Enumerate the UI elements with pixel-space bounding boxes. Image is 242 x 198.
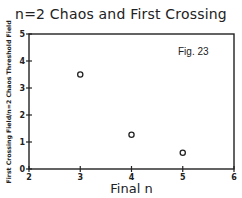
- plot-frame: [29, 34, 234, 169]
- x-tick-label: 5: [180, 173, 186, 182]
- x-tick-label: 2: [26, 173, 32, 182]
- y-tick-label: 4: [19, 57, 25, 66]
- y-tick-label: 5: [19, 30, 25, 39]
- y-axis-ticks: 012345: [19, 30, 32, 174]
- x-tick-label: 4: [129, 173, 135, 182]
- y-tick-label: 3: [19, 84, 25, 93]
- data-point: [129, 132, 134, 137]
- plot-area: 23456 012345: [0, 0, 242, 198]
- x-tick-label: 3: [77, 173, 83, 182]
- y-tick-label: 1: [19, 138, 25, 147]
- y-tick-label: 2: [19, 111, 25, 120]
- y-tick-label: 0: [19, 165, 25, 174]
- data-points: [78, 72, 186, 155]
- data-point: [180, 150, 185, 155]
- data-point: [78, 72, 83, 77]
- x-tick-label: 6: [231, 173, 237, 182]
